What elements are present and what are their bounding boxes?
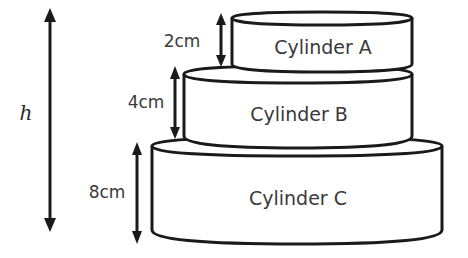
cylinder-b-label: Cylinder B xyxy=(250,103,348,125)
cylinder-c-label: Cylinder C xyxy=(249,187,347,209)
cylinder-a-height-arrow xyxy=(216,13,226,67)
arrow-up-icon xyxy=(44,8,56,22)
cylinder-a: Cylinder A xyxy=(232,12,412,72)
arrow-up-icon xyxy=(132,142,142,155)
arrow-down-icon xyxy=(170,127,180,139)
total-height-label: h xyxy=(20,101,33,125)
arrow-up-icon xyxy=(216,13,226,25)
cylinder-b-height-label: 4cm xyxy=(128,92,165,112)
arrow-down-icon xyxy=(44,218,56,232)
cylinder-c-height-label: 8cm xyxy=(89,182,126,202)
cylinder-b: Cylinder B xyxy=(184,66,412,148)
arrow-down-icon xyxy=(216,55,226,67)
cylinder-b-height-arrow xyxy=(170,66,180,139)
arrow-down-icon xyxy=(132,231,142,244)
cylinder-a-label: Cylinder A xyxy=(274,36,372,58)
cylinder-c: Cylinder C xyxy=(152,137,442,244)
arrow-up-icon xyxy=(170,66,180,79)
total-height-arrow xyxy=(44,8,56,232)
cylinder-a-height-label: 2cm xyxy=(164,31,201,51)
diagram-canvas: Cylinder C Cylinder B Cylinder A h 2cm xyxy=(0,0,468,258)
cylinder-c-height-arrow xyxy=(132,142,142,244)
